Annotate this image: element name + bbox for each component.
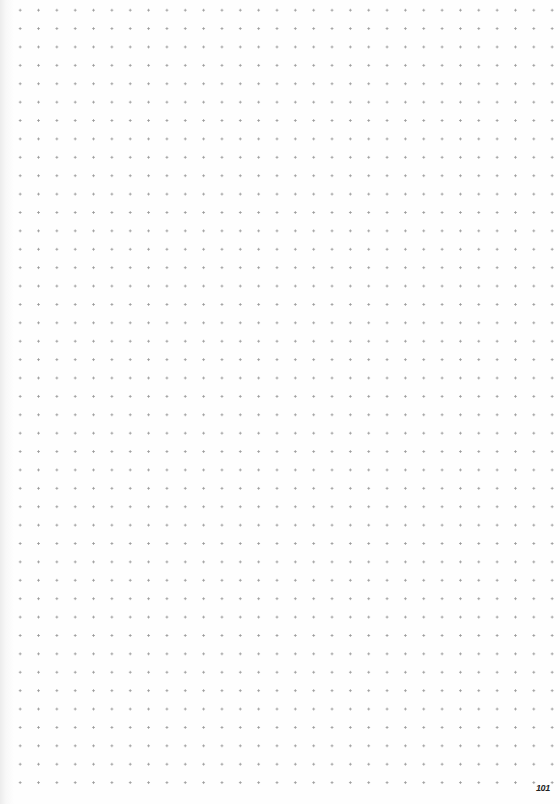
page-number: 101	[536, 783, 550, 793]
dot-grid	[11, 1, 560, 792]
notebook-page: 101	[0, 0, 560, 804]
